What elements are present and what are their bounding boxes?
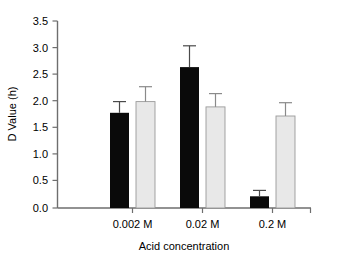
y-axis-ticks bbox=[53, 21, 58, 208]
bar-black-1 bbox=[110, 113, 129, 208]
errorbar-light-2 bbox=[209, 94, 222, 107]
bar-light-2 bbox=[206, 107, 225, 208]
bar-light-3 bbox=[276, 116, 295, 208]
x-tick-label-3: 0.2 M bbox=[259, 218, 287, 230]
errorbar-black-2 bbox=[183, 46, 196, 67]
x-tick-label-1: 0.002 M bbox=[113, 218, 153, 230]
y-tick-label-2.5: 2.5 bbox=[33, 68, 48, 80]
bar-light-1 bbox=[136, 102, 155, 208]
errorbar-light-3 bbox=[279, 103, 292, 116]
bar-black-2 bbox=[180, 67, 199, 208]
y-tick-label-0.0: 0.0 bbox=[33, 202, 48, 214]
y-tick-label-0.5: 0.5 bbox=[33, 174, 48, 186]
x-axis-title: Acid concentration bbox=[139, 240, 230, 252]
y-tick-label-3.0: 3.0 bbox=[33, 42, 48, 54]
bar-black-3 bbox=[250, 196, 269, 208]
errorbar-light-1 bbox=[139, 87, 152, 102]
y-axis-title: D Value (h) bbox=[6, 87, 18, 142]
bar-chart: 3.5 3.0 2.5 2.0 1.5 1.0 0.5 0.0 D Value … bbox=[0, 0, 340, 259]
errorbar-black-1 bbox=[113, 102, 126, 113]
y-tick-label-2.0: 2.0 bbox=[33, 95, 48, 107]
x-tick-label-2: 0.02 M bbox=[186, 218, 220, 230]
chart-container: 3.5 3.0 2.5 2.0 1.5 1.0 0.5 0.0 D Value … bbox=[0, 0, 340, 259]
errorbar-black-3 bbox=[253, 190, 266, 196]
y-tick-label-1.0: 1.0 bbox=[33, 148, 48, 160]
y-tick-label-1.5: 1.5 bbox=[33, 121, 48, 133]
y-tick-label-3.5: 3.5 bbox=[33, 15, 48, 27]
